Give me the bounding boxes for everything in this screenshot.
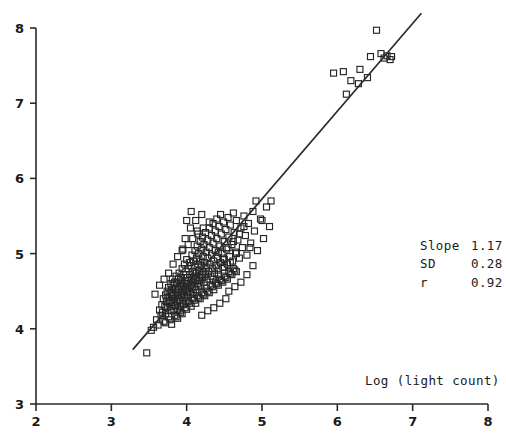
- slope-label: Slope: [420, 238, 460, 253]
- slope-value: 1.17: [471, 238, 503, 253]
- sd-value: 0.28: [471, 256, 503, 271]
- correlation-label: r: [420, 275, 428, 290]
- x-axis-title: Log (light count): [365, 373, 500, 388]
- scatter-plot-figure: 3456782345678 Log (light count) Slope 1.…: [0, 0, 506, 446]
- text-overlay: Log (light count) Slope 1.17 SD 0.28 r 0…: [0, 0, 506, 446]
- correlation-value: 0.92: [471, 275, 503, 290]
- sd-label: SD: [420, 256, 436, 271]
